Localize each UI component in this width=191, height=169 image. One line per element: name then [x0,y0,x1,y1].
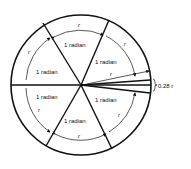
sector-label: 1 radian [36,69,58,75]
arc-label: r [110,71,113,77]
arc-label: r [78,22,81,28]
arc-label: r [38,107,41,113]
arc-label: r [28,49,31,55]
sector-label: 1 radian [64,42,86,48]
sector-label: 1 radian [36,94,58,100]
sector-label: 1 radian [95,97,117,103]
arc-label: r [118,112,121,118]
arc-label: r [78,133,81,139]
radii [11,20,151,149]
radian-diagram: 1 radian 1 radian 1 radian 1 radian 1 ra… [0,0,191,169]
remainder-label: 0.28 r [158,83,173,89]
brace [153,79,157,91]
arc-label: r [124,41,127,47]
sector-label: 1 radian [95,59,117,65]
sector-label: 1 radian [64,118,86,124]
